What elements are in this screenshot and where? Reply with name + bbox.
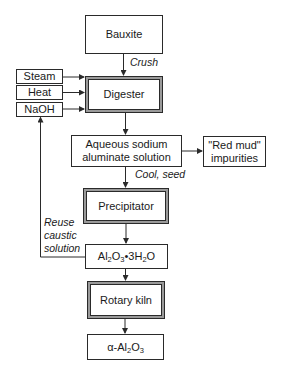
- reuse-label-line1: Reuse: [44, 216, 80, 229]
- red-mud-box: "Red mud" impurities: [203, 136, 266, 167]
- alpha-alumina-box: α-Al2O3: [87, 334, 164, 360]
- red-mud-label-line2: impurities: [211, 152, 258, 165]
- heat-box: Heat: [16, 85, 63, 100]
- digester-box: Digester: [85, 76, 163, 113]
- precipitator-box: Precipitator: [83, 188, 169, 224]
- heat-label: Heat: [28, 86, 51, 99]
- naoh-box: NaOH: [16, 102, 63, 117]
- aqueous-solution-box: Aqueous sodium aluminate solution: [71, 135, 182, 167]
- precipitator-label: Precipitator: [98, 200, 154, 213]
- alumina-trihydrate-box: Al2O3•3H2O: [85, 244, 168, 269]
- steam-label: Steam: [24, 70, 56, 83]
- bauxite-label: Bauxite: [106, 28, 143, 41]
- reuse-label-line2: caustic: [44, 229, 80, 242]
- rotary-kiln-label: Rotary kiln: [100, 294, 152, 307]
- reuse-label-line3: solution: [44, 242, 80, 255]
- alumina-trihydrate-label: Al2O3•3H2O: [98, 250, 155, 263]
- aqueous-label-line2: aluminate solution: [82, 151, 171, 164]
- digester-label: Digester: [104, 88, 145, 101]
- red-mud-label-line1: "Red mud": [208, 139, 260, 152]
- aqueous-label-line1: Aqueous sodium: [86, 138, 168, 151]
- bauxite-box: Bauxite: [85, 15, 163, 54]
- rotary-kiln-box: Rotary kiln: [87, 281, 165, 319]
- alpha-alumina-label: α-Al2O3: [107, 341, 144, 354]
- naoh-label: NaOH: [24, 103, 55, 116]
- cool-seed-label: Cool, seed: [135, 168, 185, 180]
- crush-label: Crush: [130, 56, 158, 68]
- steam-box: Steam: [16, 69, 63, 84]
- reuse-caustic-label: Reuse caustic solution: [44, 216, 80, 255]
